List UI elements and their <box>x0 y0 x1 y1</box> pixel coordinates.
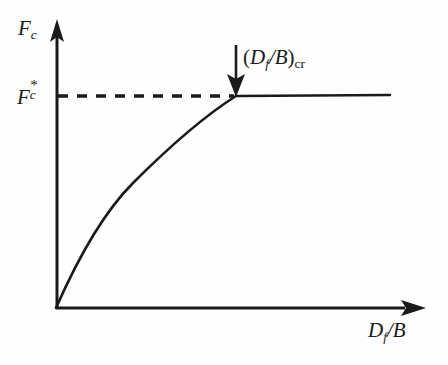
annotation-b: B <box>275 45 288 69</box>
x-axis-title-d: D <box>368 318 383 342</box>
x-axis-title-b: B <box>393 318 406 342</box>
annotation-d: D <box>250 45 265 69</box>
fc-star-affixes: *c <box>30 83 39 104</box>
y-axis-title-base: F <box>18 16 31 40</box>
y-axis-title-subscript: c <box>31 27 37 42</box>
x-axis-title: Df/B <box>368 320 406 341</box>
plot-canvas <box>0 0 448 365</box>
fc-star-tick-label: F*c <box>17 83 39 108</box>
annotation-open-paren: ( <box>243 45 250 69</box>
capacity-curve <box>56 95 390 308</box>
fc-star-subscript: c <box>30 88 36 101</box>
y-axis-title: Fc <box>18 18 37 39</box>
critical-ratio-annotation: (Df/B)cr <box>243 47 305 68</box>
fc-star-base: F <box>17 85 30 109</box>
figure-container: Fc F*c (Df/B)cr Df/B <box>0 0 448 365</box>
annotation-close-paren: ) <box>288 45 295 69</box>
annotation-cr-subscript: cr <box>295 56 305 71</box>
